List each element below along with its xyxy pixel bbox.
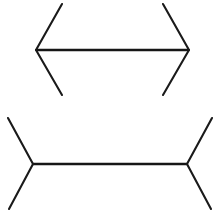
muller-lyer-illusion-drawing (0, 0, 223, 213)
illusion-canvas (0, 0, 223, 213)
bottom-figure-group (8, 118, 212, 209)
bottom-left-lower-fin (9, 164, 33, 209)
bottom-right-lower-fin (187, 164, 211, 209)
top-right-lower-fin (163, 50, 189, 95)
top-left-upper-fin (36, 4, 62, 50)
bottom-left-upper-fin (8, 118, 33, 164)
bottom-right-upper-fin (187, 118, 212, 164)
top-right-upper-fin (163, 4, 189, 50)
top-figure-group (36, 4, 189, 95)
top-left-lower-fin (36, 50, 62, 95)
